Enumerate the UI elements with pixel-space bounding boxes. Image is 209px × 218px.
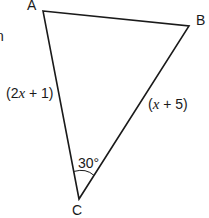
side-ac-rest: + 1) (25, 85, 53, 101)
angle-label-c: 30° (78, 156, 99, 170)
side-bc-rest: + 5) (159, 96, 187, 112)
side-label-ac: (2x + 1) (6, 86, 54, 101)
side-ac-open: (2 (6, 85, 18, 101)
cut-off-text: n (0, 29, 4, 43)
vertex-label-a: A (27, 0, 36, 12)
side-label-bc: (x + 5) (148, 97, 188, 112)
vertex-label-c: C (72, 203, 82, 217)
angle-arc-c (74, 170, 94, 175)
vertex-label-b: B (196, 13, 205, 27)
